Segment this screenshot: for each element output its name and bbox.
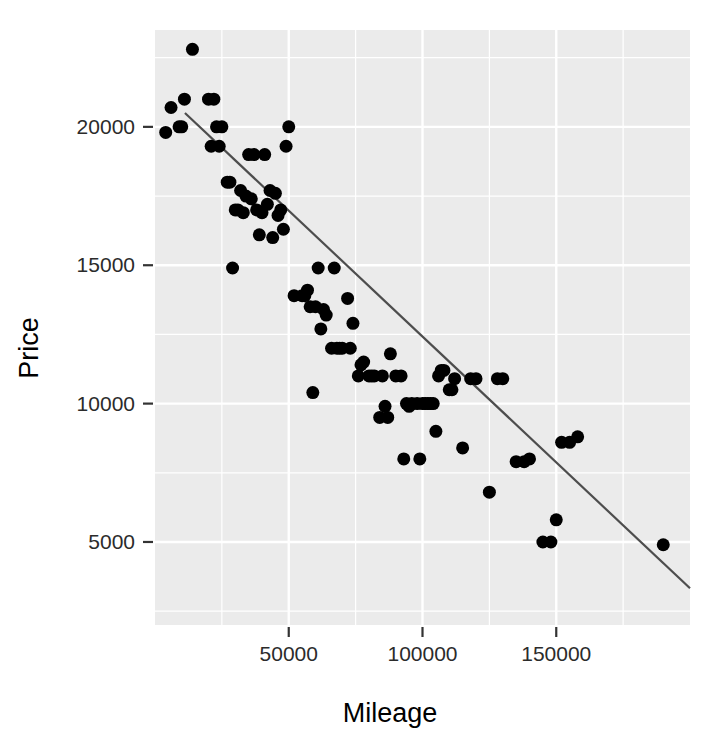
- x-axis-title: Mileage: [343, 698, 438, 728]
- data-point: [282, 120, 295, 133]
- data-point: [159, 126, 172, 139]
- data-point: [213, 140, 226, 153]
- data-point: [544, 535, 557, 548]
- data-point: [306, 386, 319, 399]
- scatter-plot: 50000100000150000 5000100001500020000 Mi…: [0, 0, 710, 756]
- data-point: [435, 364, 448, 377]
- data-point: [373, 411, 386, 424]
- data-point: [234, 184, 247, 197]
- x-tick-label: 100000: [387, 642, 457, 665]
- y-tick-label: 10000: [77, 392, 135, 415]
- data-point: [354, 358, 367, 371]
- y-tick-label: 20000: [77, 115, 135, 138]
- data-point: [395, 369, 408, 382]
- data-point: [483, 486, 496, 499]
- data-point: [445, 383, 458, 396]
- y-tick-label: 15000: [77, 253, 135, 276]
- data-point: [346, 317, 359, 330]
- data-point: [258, 148, 271, 161]
- data-point: [210, 120, 223, 133]
- y-tick-label: 5000: [88, 530, 135, 553]
- data-point: [223, 176, 236, 189]
- data-point: [429, 425, 442, 438]
- data-point: [403, 400, 416, 413]
- data-point: [448, 372, 461, 385]
- data-point: [397, 452, 410, 465]
- x-tick-label: 50000: [260, 642, 318, 665]
- data-point: [277, 223, 290, 236]
- data-point: [237, 206, 250, 219]
- data-point: [365, 369, 378, 382]
- data-point: [341, 292, 354, 305]
- data-point: [413, 452, 426, 465]
- data-point: [165, 101, 178, 114]
- data-point: [280, 140, 293, 153]
- x-tick-label: 150000: [521, 642, 591, 665]
- data-point: [657, 538, 670, 551]
- data-point: [298, 289, 311, 302]
- data-point: [274, 203, 287, 216]
- data-point: [317, 303, 330, 316]
- data-point: [207, 93, 220, 106]
- data-point: [186, 43, 199, 56]
- data-point: [261, 198, 274, 211]
- data-point: [175, 120, 188, 133]
- data-point: [571, 430, 584, 443]
- data-point: [419, 397, 432, 410]
- data-point: [328, 262, 341, 275]
- data-point: [178, 93, 191, 106]
- data-point: [456, 441, 469, 454]
- data-point: [253, 228, 266, 241]
- y-axis-title: Price: [14, 317, 44, 379]
- data-point: [496, 372, 509, 385]
- data-point: [523, 452, 536, 465]
- chart-container: 50000100000150000 5000100001500020000 Mi…: [0, 0, 710, 756]
- data-point: [379, 400, 392, 413]
- data-point: [550, 513, 563, 526]
- data-point: [266, 231, 279, 244]
- data-point: [312, 262, 325, 275]
- data-point: [269, 187, 282, 200]
- data-point: [314, 322, 327, 335]
- data-point: [344, 342, 357, 355]
- data-point: [384, 347, 397, 360]
- data-point: [245, 192, 258, 205]
- x-axis-tick-labels: 50000100000150000: [260, 642, 592, 665]
- data-point: [470, 372, 483, 385]
- data-point: [226, 262, 239, 275]
